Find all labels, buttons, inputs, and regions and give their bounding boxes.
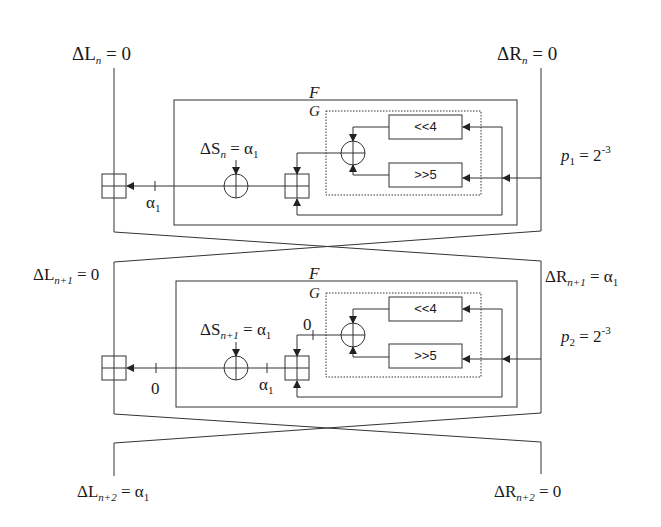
probability-label: p1 = 2-3	[561, 144, 611, 167]
input-left-label: ΔLn+1 = 0	[33, 266, 99, 286]
input-right-label: ΔRn = 0	[497, 44, 557, 66]
wire-left-label: α1	[146, 194, 160, 214]
shift-right-label: >>5	[389, 168, 462, 181]
f-function-box	[176, 281, 517, 407]
swap-line	[114, 413, 541, 443]
input-right-label: ΔRn+1 = α1	[545, 268, 618, 288]
input-left-label: ΔLn = 0	[72, 44, 131, 66]
swap-line	[114, 231, 541, 262]
f-label: F	[309, 265, 319, 282]
delta-s-label: ΔSn+1 = α1	[200, 321, 271, 341]
g-label: G	[309, 286, 320, 301]
wire-left-label: 0	[151, 380, 160, 397]
shift-left-label: <<4	[389, 120, 462, 133]
round-2	[102, 261, 541, 476]
round-1	[102, 68, 541, 262]
wire-mid-label: α1	[259, 376, 273, 396]
f-label: F	[309, 84, 319, 101]
g-label: G	[309, 104, 320, 119]
output-right-label: ΔRn+2 = 0	[494, 483, 561, 503]
g-output-label: 0	[303, 316, 312, 333]
shift-right-label: >>5	[389, 349, 462, 362]
probability-label: p2 = 2-3	[561, 325, 611, 348]
delta-s-label: ΔSn = α1	[200, 140, 258, 160]
output-left-label: ΔLn+2 = α1	[77, 483, 149, 503]
feistel-diagram	[0, 0, 661, 527]
shift-left-label: <<4	[389, 302, 462, 315]
